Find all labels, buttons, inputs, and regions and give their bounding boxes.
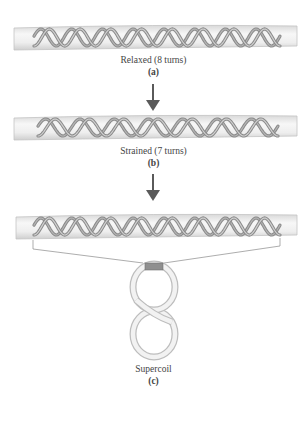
zoom-bracket [33,238,280,263]
down-arrow-icon [146,174,160,201]
strained-dna-tube [14,115,297,140]
panel-tag-a: (a) [0,67,307,77]
down-arrow-icon [146,84,160,111]
figure-eight-supercoil [133,263,175,357]
relaxed-dna-tube [14,25,297,50]
supercoil-dna-tube [16,214,297,239]
caption-relaxed: Relaxed (8 turns) [0,55,307,65]
panel-tag-b: (b) [0,158,307,168]
caption-strained: Strained (7 turns) [0,146,307,156]
panel-tag-c: (c) [0,376,307,386]
caption-supercoil: Supercoil [0,364,307,374]
unwound-segment [145,263,163,270]
